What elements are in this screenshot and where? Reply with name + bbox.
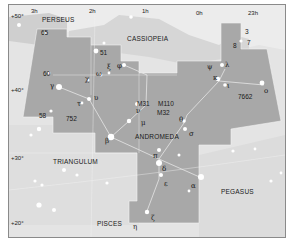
label-andromeda: ANDROMEDA (135, 134, 179, 141)
star-label-3: 3 (245, 29, 249, 36)
star-label-beta: β (105, 138, 109, 145)
star-label-theta: θ (179, 117, 183, 124)
dso-label-752: 752 (66, 116, 77, 123)
star-label-phi: φ (117, 63, 122, 70)
star-label-pi: π (153, 153, 158, 160)
star-label-tau: τ (77, 101, 81, 108)
star-label-zeta: ζ (151, 215, 155, 222)
dec-label-50: +50° (11, 13, 24, 19)
star-label-58: 58 (39, 113, 46, 120)
star-label-8: 8 (233, 43, 237, 50)
star-label-epsilon: ε (164, 181, 168, 188)
label-cassiopeia: CASSIOPEIA (127, 36, 168, 43)
dec-label-20: +20° (11, 220, 24, 226)
dso-label-m32: M32 (157, 110, 170, 117)
label-triangulum: TRIANGULUM (53, 159, 98, 166)
star-label-psi: ψ (207, 64, 213, 71)
star-label-mu: μ (141, 120, 146, 127)
star-label-65: 65 (41, 30, 48, 37)
star-label-omicron: o (264, 88, 268, 95)
label-pegasus: PEGASUS (221, 189, 254, 196)
dec-label-30: +30° (11, 155, 24, 161)
star-label-gamma: γ (50, 83, 54, 90)
label-perseus: PERSEUS (42, 17, 74, 24)
ra-label-1h: 1h (142, 8, 149, 14)
star-label-sigma: σ (189, 131, 194, 138)
star-label-alpha: α (191, 183, 196, 190)
dso-label-7662: 7662 (238, 94, 252, 101)
star-label-nu: ν (136, 108, 140, 115)
star-label-xi: ξ (107, 64, 111, 71)
dso-label-m31: M31 (137, 101, 150, 108)
star-chart: 3h 2h 1h 0h 23h +50° +40° +30° +20° PERS… (8, 4, 286, 238)
star-label-delta: δ (162, 166, 166, 173)
star-label-iota: ι (227, 83, 230, 90)
star-label-omega: ω (96, 71, 102, 78)
star-label-eta: η (133, 224, 137, 231)
pegasus-region (199, 135, 285, 237)
star-label-chi: χ (85, 76, 89, 83)
star-label-51: 51 (100, 50, 107, 57)
ra-label-3h: 3h (31, 8, 38, 14)
label-pisces: PISCES (97, 221, 122, 228)
ra-label-0h: 0h (196, 10, 203, 16)
ra-label-23h: 23h (248, 10, 258, 16)
ra-label-2h: 2h (89, 8, 96, 14)
star-label-lambda: λ (225, 62, 229, 69)
dec-label-40: +40° (11, 87, 24, 93)
star-label-kappa: κ (213, 75, 217, 82)
star-label-60: 60 (43, 71, 50, 78)
star-label-7: 7 (247, 40, 251, 47)
dso-label-m110: M110 (158, 101, 174, 108)
star-label-upsilon: υ (94, 95, 98, 102)
